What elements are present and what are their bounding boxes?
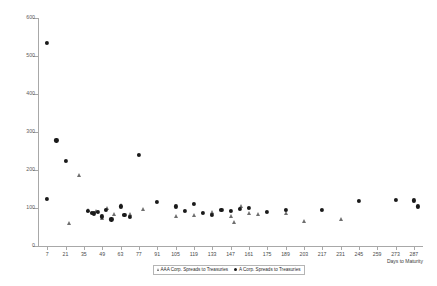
legend-entry-a[interactable]: A Corp. Spreads to Treasuries xyxy=(234,268,300,273)
data-point xyxy=(192,213,196,217)
triangle-marker-icon xyxy=(157,268,159,271)
x-tick-mark xyxy=(396,246,397,250)
data-point xyxy=(339,217,343,221)
y-tick-label: 200 xyxy=(26,167,35,172)
x-tick-mark xyxy=(102,246,103,250)
legend-label-a: A Corp. Spreads to Treasuries xyxy=(239,268,301,273)
x-tick-label: 203 xyxy=(300,252,309,257)
x-tick-label: 175 xyxy=(263,252,272,257)
x-tick-label: 77 xyxy=(136,252,142,257)
data-point xyxy=(232,220,236,224)
legend-label-aaa: AAA Corp. Spreads to Treasuries xyxy=(161,268,229,273)
x-tick-label: 273 xyxy=(391,252,400,257)
x-tick-mark xyxy=(414,246,415,250)
x-tick-label: 63 xyxy=(118,252,124,257)
data-point xyxy=(229,214,233,218)
x-tick-label: 189 xyxy=(281,252,290,257)
y-tick-label: 600 xyxy=(26,15,35,20)
x-tick-label: 7 xyxy=(46,252,49,257)
x-tick-label: 287 xyxy=(410,252,419,257)
data-point xyxy=(302,219,306,223)
x-tick-mark xyxy=(267,246,268,250)
y-tick-label: 100 xyxy=(26,205,35,210)
x-tick-mark xyxy=(249,246,250,250)
data-point xyxy=(67,221,71,225)
data-point xyxy=(174,214,178,218)
y-tick-label: 300 xyxy=(26,129,35,134)
x-tick-label: 91 xyxy=(154,252,160,257)
chart-legend: AAA Corp. Spreads to Treasuries A Corp. … xyxy=(153,265,305,275)
data-point xyxy=(256,212,260,216)
x-tick-mark xyxy=(231,246,232,250)
x-tick-mark xyxy=(304,246,305,250)
x-tick-mark xyxy=(341,246,342,250)
x-tick-label: 133 xyxy=(208,252,217,257)
x-tick-mark xyxy=(47,246,48,250)
x-tick-mark xyxy=(176,246,177,250)
x-tick-label: 49 xyxy=(99,252,105,257)
circle-marker-icon xyxy=(234,268,237,271)
data-point xyxy=(284,211,288,215)
x-tick-mark xyxy=(212,246,213,250)
x-tick-label: 119 xyxy=(190,252,198,257)
data-point xyxy=(141,207,145,211)
x-tick-label: 161 xyxy=(245,252,254,257)
x-tick-mark xyxy=(286,246,287,250)
x-tick-label: 231 xyxy=(336,252,345,257)
x-tick-mark xyxy=(322,246,323,250)
legend-entry-aaa[interactable]: AAA Corp. Spreads to Treasuries xyxy=(157,268,228,273)
x-tick-mark xyxy=(121,246,122,250)
x-tick-mark xyxy=(84,246,85,250)
y-tick-label: 500 xyxy=(26,53,35,58)
y-tick-label: 0 xyxy=(32,243,35,248)
x-tick-label: 21 xyxy=(63,252,69,257)
data-point xyxy=(247,211,251,215)
x-tick-mark xyxy=(194,246,195,250)
y-axis-line xyxy=(38,18,39,246)
x-tick-label: 259 xyxy=(373,252,382,257)
data-point xyxy=(112,212,116,216)
x-tick-label: 245 xyxy=(355,252,364,257)
x-tick-label: 217 xyxy=(318,252,327,257)
data-point xyxy=(77,173,81,177)
x-tick-mark xyxy=(377,246,378,250)
x-tick-mark xyxy=(66,246,67,250)
x-tick-mark xyxy=(359,246,360,250)
x-tick-label: 147 xyxy=(226,252,235,257)
x-tick-mark xyxy=(157,246,158,250)
y-tick-label: 400 xyxy=(26,91,35,96)
x-tick-label: 105 xyxy=(171,252,180,257)
x-axis-title: Days to Maturity xyxy=(0,259,423,264)
scatter-chart-figure: 0100200300400500600 72135496377911051191… xyxy=(0,0,437,286)
x-tick-label: 35 xyxy=(81,252,87,257)
x-tick-mark xyxy=(139,246,140,250)
